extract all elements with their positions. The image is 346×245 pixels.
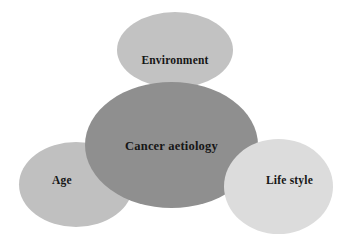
diagram-node-label-age: Age bbox=[52, 175, 72, 187]
diagram-node-life-style: Life style bbox=[224, 139, 333, 234]
diagram-canvas: Environment Age Cancer aetiology Life st… bbox=[0, 0, 346, 245]
diagram-node-label-cancer-aetiology: Cancer aetiology bbox=[125, 140, 218, 153]
diagram-node-environment: Environment bbox=[117, 12, 233, 88]
diagram-node-label-environment: Environment bbox=[141, 55, 208, 67]
diagram-node-label-life-style: Life style bbox=[266, 175, 313, 187]
